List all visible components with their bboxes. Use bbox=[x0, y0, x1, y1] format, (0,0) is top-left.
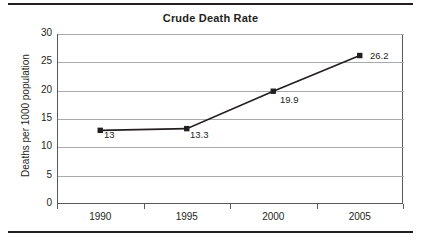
series-markers bbox=[98, 53, 363, 133]
data-point-marker bbox=[184, 126, 189, 131]
chart-figure: Crude Death Rate Deaths per 1000 populat… bbox=[0, 0, 421, 243]
data-point-marker bbox=[357, 53, 362, 58]
point-value-label: 26.2 bbox=[370, 50, 389, 61]
point-value-label: 19.9 bbox=[280, 94, 299, 105]
data-point-marker bbox=[98, 128, 103, 133]
series-line bbox=[100, 56, 360, 131]
data-point-marker bbox=[271, 89, 276, 94]
point-value-label: 13 bbox=[104, 129, 115, 140]
point-value-label: 13.3 bbox=[190, 129, 209, 140]
data-series-layer bbox=[0, 0, 421, 243]
